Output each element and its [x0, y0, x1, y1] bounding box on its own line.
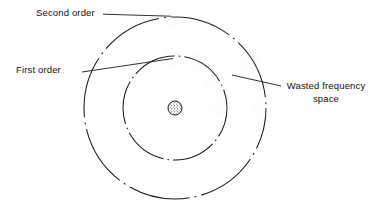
label-first-order: First order	[16, 64, 61, 77]
diagram-canvas	[0, 0, 392, 211]
orbital-frequency-diagram: Second order First order Wasted frequenc…	[0, 0, 392, 211]
satellite-cluster	[208, 93, 232, 117]
leader-first-order	[82, 59, 173, 73]
label-wasted-frequency-line2: space	[313, 93, 339, 104]
label-wasted-frequency-line1: Wasted frequency	[287, 80, 366, 91]
satellite-cluster	[202, 69, 226, 93]
satellite-cluster	[251, 96, 275, 120]
satellite-cluster	[162, 45, 186, 69]
label-second-order: Second order	[36, 7, 95, 20]
satellite-cluster	[206, 16, 230, 40]
earth-station	[168, 101, 182, 115]
satellite-cluster	[160, 5, 184, 29]
satellite-cluster	[238, 50, 262, 74]
label-wasted-frequency-space: Wasted frequencyspace	[283, 79, 369, 105]
leader-wasted-frequency	[232, 75, 281, 86]
